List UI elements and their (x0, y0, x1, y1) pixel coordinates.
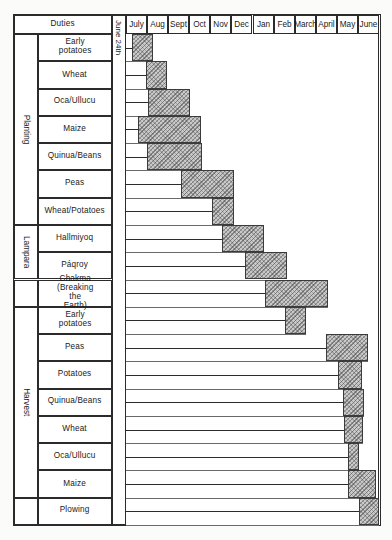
month-label: Feb (277, 20, 291, 29)
task-bar[interactable] (285, 307, 306, 334)
task-stem (126, 375, 338, 376)
start-marker-label: June 24th (115, 20, 124, 55)
month-cell-july: July (126, 15, 147, 34)
task-stem (126, 348, 326, 349)
agricultural-calendar-chart: JulyAugSeptOctNovDecJanFebMarchAprilMayJ… (13, 14, 381, 526)
task-bar[interactable] (146, 61, 167, 88)
row-label: Wheat (63, 425, 87, 434)
column-separator (126, 416, 364, 417)
task-bar[interactable] (148, 89, 190, 116)
task-bar[interactable] (245, 252, 287, 279)
month-cell-feb: Feb (274, 15, 295, 34)
group-label-harvest: Harvest (14, 307, 38, 498)
month-cell-march: March (295, 15, 316, 34)
row-label: Oca/Ullucu (54, 452, 96, 461)
task-stem (126, 184, 181, 185)
row-label-cell[interactable]: Wheat/Potatoes (38, 198, 112, 225)
row-label-cell[interactable]: Wheat (38, 61, 112, 88)
task-stem (126, 266, 245, 267)
row-label-cell[interactable]: Early potatoes (38, 307, 112, 334)
task-bar[interactable] (222, 225, 264, 252)
row-label-cell[interactable]: Peas (38, 334, 112, 361)
task-stem (126, 402, 343, 403)
month-label: April (318, 20, 334, 29)
task-bar[interactable] (138, 116, 201, 143)
group-label-empty (14, 280, 38, 307)
task-stem (126, 129, 138, 130)
column-separator (126, 498, 376, 499)
row-label: Maize (64, 125, 87, 134)
month-label: May (340, 20, 355, 29)
month-label: June (360, 20, 378, 29)
column-separator (126, 280, 287, 281)
row-label-cell[interactable]: Maize (38, 116, 112, 143)
month-cell-june: June (358, 15, 379, 34)
row-label-cell[interactable]: Quinua/Beans (38, 389, 112, 416)
month-label: July (129, 20, 144, 29)
row-label: Páqroy (62, 261, 89, 270)
duties-header-cell: Duties (14, 15, 112, 34)
column-separator (126, 225, 234, 226)
row-label-cell[interactable]: Maize (38, 470, 112, 497)
row-label-cell[interactable]: Chakma (Breaking the Earth) (38, 280, 112, 307)
task-stem (126, 75, 146, 76)
column-separator (126, 443, 363, 444)
month-cell-nov: Nov (210, 15, 231, 34)
task-bar[interactable] (338, 361, 362, 388)
group-label-text: Lampara (22, 236, 31, 268)
month-cell-sept: Sept (168, 15, 189, 34)
task-bar[interactable] (212, 198, 233, 225)
task-bar[interactable] (359, 498, 379, 525)
row-label-cell[interactable]: Oca/Ullucu (38, 443, 112, 470)
row-label: Plowing (60, 507, 90, 516)
task-stem (126, 239, 222, 240)
task-stem (126, 484, 348, 485)
month-cell-aug: Aug (147, 15, 168, 34)
month-label: Sept (170, 20, 187, 29)
row-label: Chakma (Breaking the Earth) (57, 275, 93, 310)
row-label: Quinua/Beans (48, 398, 102, 407)
task-bar[interactable] (348, 470, 375, 497)
group-label-planting: Planting (14, 34, 38, 225)
row-label: Peas (65, 180, 84, 189)
column-separator (126, 334, 306, 335)
month-cell-may: May (337, 15, 358, 34)
task-stem (126, 457, 348, 458)
row-label: Hallmiyoq (56, 234, 93, 243)
month-label: March (294, 20, 317, 29)
task-bar[interactable] (343, 389, 364, 416)
task-stem (126, 430, 344, 431)
row-label: Potatoes (58, 371, 92, 380)
task-bar[interactable] (181, 170, 234, 197)
task-bar[interactable] (348, 443, 359, 470)
column-separator (126, 389, 362, 390)
row-label-cell[interactable]: Wheat (38, 416, 112, 443)
month-label: Nov (214, 20, 229, 29)
row-label-cell[interactable]: Peas (38, 170, 112, 197)
group-label-lampara: Lampara (14, 225, 38, 280)
task-stem (126, 211, 212, 212)
column-separator (126, 525, 379, 526)
task-bar[interactable] (344, 416, 363, 443)
row-label: Maize (64, 480, 87, 489)
plot-top-rule (378, 34, 379, 525)
column-separator (126, 361, 368, 362)
row-label-cell[interactable]: Potatoes (38, 361, 112, 388)
row-label-cell[interactable]: Quinua/Beans (38, 143, 112, 170)
task-bar[interactable] (147, 143, 202, 170)
row-label-cell[interactable]: Hallmiyoq (38, 225, 112, 252)
month-cell-april: April (316, 15, 337, 34)
figure-stage: JulyAugSeptOctNovDecJanFebMarchAprilMayJ… (0, 0, 392, 540)
plot-area (126, 34, 379, 525)
task-stem (126, 511, 359, 512)
row-label-cell[interactable]: Plowing (38, 498, 112, 525)
task-bar[interactable] (132, 34, 153, 61)
task-bar[interactable] (326, 334, 368, 361)
group-label-text: Harvest (22, 388, 31, 416)
row-label-cell[interactable]: Early potatoes (38, 34, 112, 61)
month-label: Oct (193, 20, 206, 29)
row-label: Early potatoes (59, 39, 92, 57)
task-bar[interactable] (265, 280, 328, 307)
row-label-cell[interactable]: Oca/Ullucu (38, 89, 112, 116)
row-label: Wheat/Potatoes (45, 207, 105, 216)
